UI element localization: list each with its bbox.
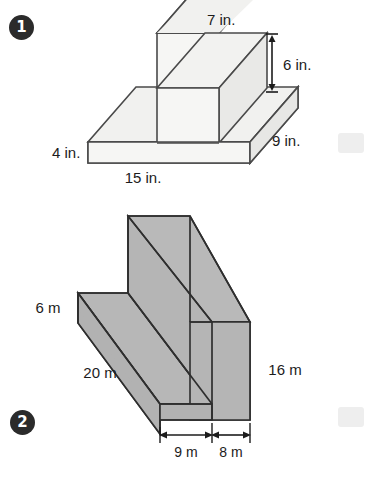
exercise-number-badge-2: 2: [10, 410, 35, 435]
upper-prism-front: [157, 88, 219, 143]
arrowhead-up: [269, 35, 276, 42]
worksheet-page: 1: [0, 0, 365, 478]
label-base-depth: 9 in.: [272, 132, 300, 149]
exercise-2: 6 m 20 m 16 m 9 m 8 m 2: [0, 195, 365, 478]
label-wall-width: 8 m: [219, 444, 242, 460]
label-step-width: 9 m: [174, 444, 197, 460]
figure-1-diagram: 7 in. 6 in. 4 in. 15 in. 9 in.: [0, 0, 365, 195]
figure-2-solid: 6 m 20 m 16 m 9 m 8 m: [0, 195, 365, 478]
low-step-front-end-face: [160, 404, 212, 420]
label-total-height: 16 m: [268, 361, 301, 378]
margin-artifact-top: [338, 133, 364, 153]
label-step-height: 6 m: [35, 299, 60, 316]
margin-artifact-bottom: [338, 407, 364, 427]
label-length: 20 m: [83, 364, 116, 381]
label-base-length: 15 in.: [125, 169, 162, 186]
label-height: 6 in.: [283, 56, 311, 73]
label-base-thickness: 4 in.: [52, 144, 80, 161]
exercise-1: 1: [0, 0, 365, 195]
tall-wall-bridge: [212, 322, 250, 420]
width-dimension-group: [159, 423, 251, 443]
base-front-overdraw: [88, 142, 250, 163]
label-top-length: 7 in.: [207, 11, 235, 28]
